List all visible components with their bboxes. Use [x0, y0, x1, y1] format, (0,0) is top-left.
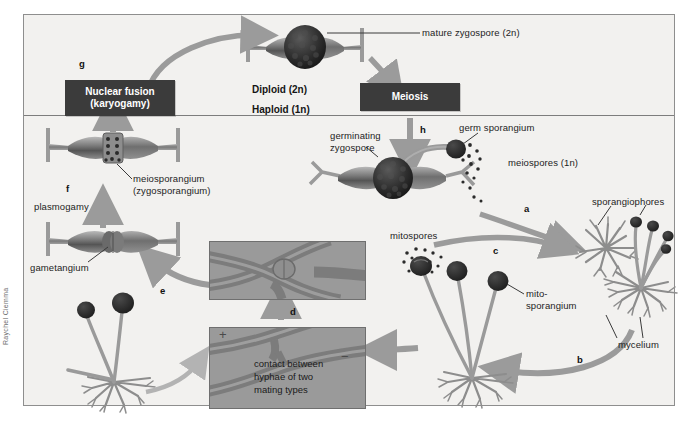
process-box-meiosis[interactable]: Meiosis	[360, 83, 460, 111]
inset-plasmogamy-fusion	[209, 241, 366, 300]
label-mitosporangium-line2: sporangium	[526, 300, 577, 312]
arrow-zygospore-to-meiosis	[370, 58, 392, 84]
inset-caption-line3: mating types	[254, 384, 308, 396]
label-mycelium: mycelium	[618, 339, 659, 351]
label-gametangium: gametangium	[30, 262, 89, 274]
label-mature-zygospore: mature zygospore (2n)	[422, 27, 520, 39]
inset-hyphae-contact: contact between hyphae of two mating typ…	[209, 327, 366, 409]
process-box-karyogamy[interactable]: Nuclear fusion (karyogamy)	[65, 80, 175, 116]
inset-caption-line2: hyphae of two	[254, 371, 313, 383]
step-letter-f: f	[66, 183, 69, 194]
label-mitospores: mitospores	[390, 230, 437, 242]
label-meiospores: meiospores (1n)	[508, 157, 578, 169]
mycelium-bottom-left-art	[68, 293, 155, 414]
label-meiosporangium-line1: meiosporangium	[133, 173, 205, 185]
meiosporangium-art	[48, 128, 178, 163]
leader-germ-sporangium	[463, 133, 478, 144]
arrow-step-b	[500, 330, 632, 373]
label-meiosporangium-line2: (zygosporangium)	[133, 185, 211, 197]
leader-mycelium-left	[606, 315, 617, 338]
step-letter-g: g	[79, 58, 85, 69]
mycelium-lower-right-art	[604, 217, 677, 318]
karyogamy-line2: (karyogamy)	[90, 98, 149, 111]
step-letter-h: h	[420, 124, 426, 135]
label-diploid: Diploid (2n)	[252, 84, 307, 95]
leader-meiosporangium	[117, 164, 132, 179]
step-letter-e: e	[160, 285, 165, 296]
step-letter-b: b	[577, 354, 583, 365]
label-sporangiophores: sporangiophores	[592, 196, 664, 208]
mating-type-plus-sign: +	[219, 327, 227, 342]
mature-zygospore-art	[248, 25, 362, 69]
inset-caption-line1: contact between	[254, 358, 323, 370]
leader-sporangiophores-left	[598, 206, 611, 225]
label-haploid: Haploid (1n)	[252, 104, 310, 115]
figure-canvas: contact between hyphae of two mating typ…	[0, 0, 698, 422]
artist-credit: Raychel Ciemma	[2, 288, 9, 346]
arrow-to-contact-inset	[378, 348, 418, 350]
mycelium-upper-right-art	[576, 217, 638, 277]
step-letter-a: a	[524, 203, 529, 214]
label-germ-sporangium: germ sporangium	[459, 122, 534, 134]
step-letter-c: c	[493, 245, 498, 256]
label-germinating-zygospore-line2: zygospore	[330, 142, 375, 154]
gametangium-art	[48, 222, 178, 256]
karyogamy-line1: Nuclear fusion	[85, 86, 154, 99]
leader-mitosporangium	[507, 284, 524, 294]
label-germinating-zygospore-line1: germinating	[330, 130, 381, 142]
label-mitosporangium-line1: mito-	[526, 288, 548, 300]
leader-mycelium-right	[640, 317, 643, 338]
arrow-step-e	[153, 260, 210, 285]
step-letter-d: d	[290, 306, 296, 317]
meiosis-line1: Meiosis	[392, 91, 429, 104]
mitosporangia-mycelium-art	[402, 247, 513, 408]
mating-type-minus-sign: −	[341, 349, 349, 364]
label-plasmogamy: plasmogamy	[34, 201, 89, 213]
